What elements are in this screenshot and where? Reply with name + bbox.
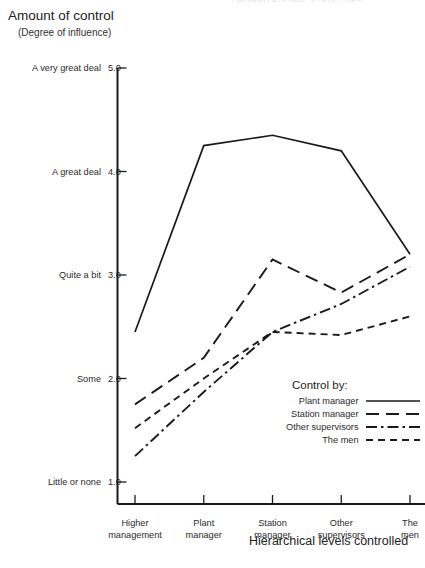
legend-item: Station manager [286, 407, 421, 420]
legend-item-label: The men [322, 435, 364, 445]
legend-item: The men [286, 433, 421, 446]
series-line-plant-manager [135, 135, 410, 332]
legend: Control by: Plant managerStation manager… [286, 379, 421, 446]
legend-items: Plant managerStation managerOther superv… [286, 394, 421, 446]
legend-item: Other supervisors [286, 420, 421, 433]
legend-item-label: Station manager [291, 409, 364, 419]
legend-item-swatch [365, 409, 421, 419]
legend-item-label: Plant manager [299, 396, 365, 406]
legend-item-swatch [365, 422, 421, 432]
control-graph-figure: ORGANIZATIONAL STRUCTURE Amount of contr… [0, 0, 425, 568]
legend-item-swatch [365, 435, 421, 445]
legend-item-swatch [365, 396, 421, 406]
legend-item-label: Other supervisors [286, 422, 365, 432]
plot-area [0, 0, 425, 568]
legend-title: Control by: [286, 379, 421, 391]
legend-item: Plant manager [286, 394, 421, 407]
